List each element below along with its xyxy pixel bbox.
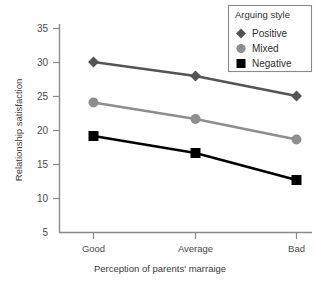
square-marker — [237, 59, 246, 68]
y-tick-label-25: 25 — [37, 91, 49, 102]
series-mixed — [89, 98, 302, 145]
x-tick-label-average: Average — [178, 243, 213, 254]
y-tick-label-30: 30 — [37, 57, 49, 68]
legend-title: Arguing style — [235, 9, 290, 20]
circle-marker — [292, 135, 302, 145]
x-tick-label-bad: Bad — [288, 243, 305, 254]
legend-label-mixed: Mixed — [252, 43, 279, 54]
y-axis-title: Relationship satisfaction — [13, 79, 24, 181]
y-tick-label-10: 10 — [37, 193, 49, 204]
y-tick-label-15: 15 — [37, 159, 49, 170]
y-tick-label-20: 20 — [37, 125, 49, 136]
x-tick-label-good: Good — [82, 243, 105, 254]
square-marker — [191, 148, 201, 158]
y-tick-label-5: 5 — [42, 227, 48, 238]
legend-item-negative[interactable]: Negative — [237, 58, 292, 69]
circle-marker — [236, 44, 245, 53]
square-marker — [292, 175, 302, 185]
line-chart-figure: 35 30 25 20 15 10 5 Good Average Bad Per… — [0, 0, 318, 283]
series-negative — [89, 131, 302, 185]
legend-label-negative: Negative — [252, 58, 292, 69]
legend-item-mixed[interactable]: Mixed — [236, 43, 278, 54]
circle-marker — [191, 114, 201, 124]
diamond-marker — [88, 57, 99, 68]
circle-marker — [89, 98, 99, 108]
y-tick-label-35: 35 — [37, 23, 49, 34]
legend: Arguing style Positive Mixed Negative — [229, 6, 312, 72]
square-marker — [89, 131, 99, 141]
chart-canvas: 35 30 25 20 15 10 5 Good Average Bad Per… — [0, 0, 318, 283]
x-axis-title: Perception of parents' marraige — [94, 263, 226, 274]
diamond-marker — [291, 91, 302, 102]
diamond-marker — [190, 71, 201, 82]
legend-label-positive: Positive — [252, 28, 287, 39]
